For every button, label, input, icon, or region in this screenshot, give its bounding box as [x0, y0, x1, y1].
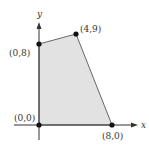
vertex-point-4-9	[73, 31, 78, 36]
y-axis-label: y	[36, 9, 43, 19]
diagram-canvas: x y (0,0) (8,0) (4,9) (0,8)	[0, 0, 149, 149]
vertex-point-origin	[36, 122, 41, 127]
vertex-point-8-0	[109, 122, 114, 127]
feasible-region	[39, 34, 112, 125]
y-axis-arrow-icon	[37, 22, 42, 29]
vertex-label-4-9: (4,9)	[80, 24, 101, 34]
vertex-label-8-0: (8,0)	[102, 131, 123, 141]
x-axis-label: x	[141, 120, 146, 130]
vertex-point-0-8	[36, 41, 41, 46]
x-axis-arrow-icon	[131, 123, 138, 128]
feasible-region-diagram: x y (0,0) (8,0) (4,9) (0,8)	[0, 0, 149, 149]
vertex-label-0-8: (0,8)	[9, 48, 30, 58]
vertex-label-origin: (0,0)	[14, 113, 35, 123]
